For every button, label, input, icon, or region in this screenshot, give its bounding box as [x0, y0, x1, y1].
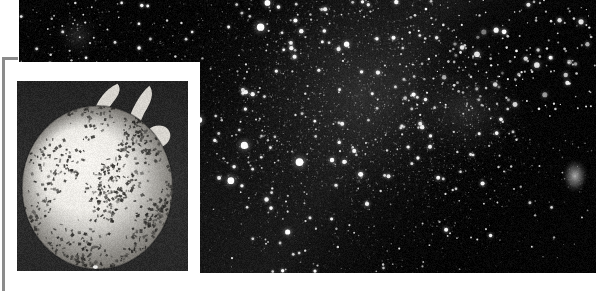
- inset-frame-rule-left: [2, 57, 5, 291]
- star-field-description: Dense black-and-white photographic star …: [0, 0, 1, 1]
- figure-root: Star field with inset sphere photograph …: [0, 0, 596, 291]
- inset-sphere-canvas: [17, 81, 188, 271]
- figure-title: Star field with inset sphere photograph: [0, 0, 1, 1]
- inset-sphere-photograph: [17, 81, 188, 271]
- inset-description: Framed black-and-white photograph of a p…: [0, 0, 1, 1]
